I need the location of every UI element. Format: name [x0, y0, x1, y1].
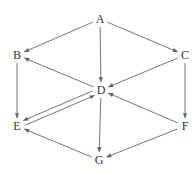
edge-g-to-e	[24, 129, 91, 157]
edge-a-to-b	[24, 22, 92, 52]
node-b: B	[12, 49, 22, 61]
edge-d-to-e	[23, 91, 92, 121]
edge-d-to-b	[24, 58, 93, 87]
node-c: C	[180, 49, 190, 61]
node-a: A	[95, 13, 106, 25]
edge-f-to-g	[106, 129, 177, 157]
edge-a-to-c	[107, 22, 177, 52]
edge-f-to-d	[108, 93, 177, 123]
node-e: E	[12, 120, 21, 132]
node-g: G	[94, 154, 105, 166]
edge-a-to-d	[100, 27, 101, 82]
graph-diagram: ABCDEFG	[0, 0, 196, 173]
edge-d-to-g	[99, 98, 101, 152]
node-d: D	[96, 84, 107, 96]
node-f: F	[181, 120, 190, 132]
edge-c-to-d	[108, 58, 177, 87]
edge-e-to-d	[25, 95, 94, 125]
